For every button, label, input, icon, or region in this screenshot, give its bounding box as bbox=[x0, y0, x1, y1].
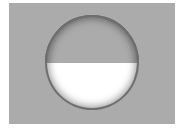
half-filled-circle bbox=[45, 15, 139, 110]
circle-fill-lower-half bbox=[45, 63, 139, 111]
diagram-canvas bbox=[0, 0, 185, 136]
